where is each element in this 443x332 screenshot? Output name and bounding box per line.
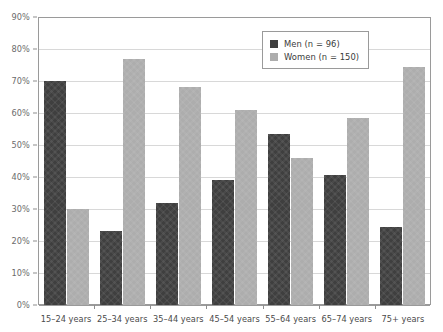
y-tick-mark: [33, 145, 37, 146]
x-tick-label: 75+ years: [381, 314, 424, 324]
bar: [44, 81, 66, 305]
y-tick-mark: [33, 273, 37, 274]
y-tick-mark: [33, 113, 37, 114]
chart-legend: Men (n = 96)Women (n = 150): [262, 31, 369, 69]
x-tick-mark: [94, 305, 95, 309]
y-tick-label: 30%: [12, 204, 31, 214]
bar: [67, 209, 89, 305]
legend-swatch-men-icon: [270, 40, 278, 48]
x-tick-label: 65–74 years: [321, 314, 372, 324]
bar: [179, 87, 201, 305]
bar-group: [44, 17, 89, 305]
x-tick-label: 35–44 years: [153, 314, 204, 324]
x-tick-label: 15–24 years: [41, 314, 92, 324]
y-tick-label: 40%: [12, 172, 31, 182]
y-tick-label: 50%: [12, 140, 31, 150]
legend-item: Men (n = 96): [270, 37, 359, 50]
bar: [100, 231, 122, 305]
y-tick-mark: [33, 209, 37, 210]
legend-swatch-women-icon: [270, 53, 278, 61]
x-tick-mark: [375, 305, 376, 309]
x-tick-label: 55–64 years: [265, 314, 316, 324]
legend-label: Men (n = 96): [284, 39, 340, 49]
bar: [123, 59, 145, 305]
bars-layer: [38, 17, 431, 305]
x-tick-mark: [150, 305, 151, 309]
bar: [212, 180, 234, 305]
y-tick-mark: [33, 177, 37, 178]
bar: [324, 175, 346, 305]
legend-item: Women (n = 150): [270, 50, 359, 63]
bar-group: [156, 17, 201, 305]
bar-group: [100, 17, 145, 305]
x-tick-label: 45–54 years: [209, 314, 260, 324]
y-tick-mark: [33, 17, 37, 18]
y-tick-label: 90%: [12, 12, 31, 22]
bar: [156, 203, 178, 305]
bar: [347, 118, 369, 305]
y-tick-label: 60%: [12, 108, 31, 118]
bar: [403, 67, 425, 305]
y-tick-mark: [33, 81, 37, 82]
y-axis: 0%10%20%30%40%50%60%70%80%90%: [0, 0, 38, 332]
bar-group: [380, 17, 425, 305]
x-tick-label: 25–34 years: [97, 314, 148, 324]
y-tick-label: 0%: [17, 300, 30, 310]
y-tick-mark: [33, 49, 37, 50]
bar: [268, 134, 290, 305]
bar: [235, 110, 257, 305]
x-axis: 15–24 years25–34 years35–44 years45–54 y…: [38, 305, 431, 332]
x-tick-mark: [206, 305, 207, 309]
bar: [291, 158, 313, 305]
legend-label: Women (n = 150): [284, 52, 359, 62]
x-tick-mark: [263, 305, 264, 309]
bar: [380, 227, 402, 305]
y-tick-label: 70%: [12, 76, 31, 86]
bar-chart: 0%10%20%30%40%50%60%70%80%90% 15–24 year…: [0, 0, 443, 332]
y-tick-mark: [33, 241, 37, 242]
y-tick-label: 10%: [12, 268, 31, 278]
x-tick-mark: [319, 305, 320, 309]
y-tick-mark: [33, 305, 37, 306]
bar-group: [212, 17, 257, 305]
y-tick-label: 80%: [12, 44, 31, 54]
y-tick-label: 20%: [12, 236, 31, 246]
